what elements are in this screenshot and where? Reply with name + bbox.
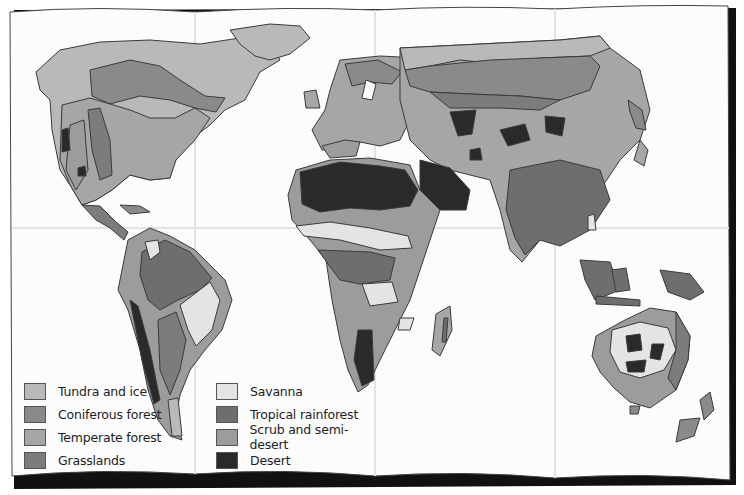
- tundra-swatch-icon: [24, 383, 46, 400]
- coniferous-swatch-icon: [24, 406, 46, 423]
- legend-item-coniferous: Coniferous forest: [24, 403, 161, 425]
- grasslands-swatch-icon: [24, 452, 46, 469]
- legend-label: Temperate forest: [58, 430, 161, 445]
- legend-label: Coniferous forest: [58, 407, 161, 422]
- legend-item-savanna: Savanna: [216, 380, 384, 402]
- map-legend: Tundra and ice Coniferous forest Tempera…: [24, 380, 384, 480]
- legend-label: Savanna: [250, 384, 303, 399]
- desert-swatch-icon: [216, 452, 238, 469]
- legend-label: Tundra and ice: [58, 384, 147, 399]
- tropical-swatch-icon: [216, 406, 238, 423]
- legend-label: Desert: [250, 453, 290, 468]
- legend-label: Tropical rainforest: [250, 407, 358, 422]
- legend-column-left: Tundra and ice Coniferous forest Tempera…: [24, 380, 161, 472]
- legend-item-temperate: Temperate forest: [24, 426, 161, 448]
- temperate-swatch-icon: [24, 429, 46, 446]
- scrub-swatch-icon: [216, 429, 238, 446]
- legend-item-grasslands: Grasslands: [24, 449, 161, 471]
- legend-item-desert: Desert: [216, 449, 384, 471]
- savanna-swatch-icon: [216, 383, 238, 400]
- legend-column-right: Savanna Tropical rainforest Scrub and se…: [216, 380, 384, 472]
- legend-label: Scrub and semi-desert: [250, 422, 384, 452]
- legend-item-scrub: Scrub and semi-desert: [216, 426, 384, 448]
- legend-label: Grasslands: [58, 453, 125, 468]
- legend-item-tundra: Tundra and ice: [24, 380, 161, 402]
